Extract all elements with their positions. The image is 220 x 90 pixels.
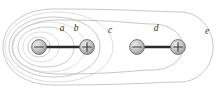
diagram-canvas: abcde (0, 0, 220, 90)
contour-label-c: c (108, 25, 113, 35)
physics-equipotential-figure: abcde (0, 0, 220, 90)
contour-label-layer: abcde (60, 23, 209, 36)
charge-minus (130, 40, 145, 55)
contour-label-b: b (74, 23, 79, 33)
charge-plus (171, 40, 186, 55)
contour-label-d: d (154, 23, 159, 33)
charge-plus (80, 40, 95, 55)
contour-label-a: a (60, 23, 65, 33)
contour-label-e: e (205, 26, 209, 36)
charge-minus (32, 40, 47, 55)
